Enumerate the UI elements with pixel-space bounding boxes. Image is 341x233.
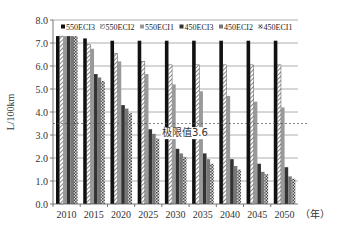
legend-swatch [219, 25, 223, 29]
bar-450ECI1-2015 [101, 81, 105, 204]
bar-550ECI2-2020 [114, 53, 118, 204]
bar-450ECI2-2025 [152, 134, 156, 204]
bar-550ECI2-2050 [277, 65, 281, 204]
x-tick-label: 2020 [111, 209, 131, 220]
bar-550ECI3-2035 [192, 41, 196, 204]
bar-450ECI2-2035 [207, 159, 211, 204]
y-tick-label: 2.0 [36, 153, 49, 164]
bar-550ECI1-2025 [145, 74, 149, 204]
bar-550ECI3-2045 [247, 41, 251, 204]
bar-450ECI1-2025 [156, 138, 160, 204]
legend-swatch [259, 25, 263, 29]
y-axis-label: L/100km [5, 93, 16, 130]
bar-550ECI3-2015 [83, 38, 87, 204]
bar-550ECI2-2015 [87, 44, 91, 204]
y-tick-label: 5.0 [36, 84, 49, 95]
legend-swatch [140, 25, 144, 29]
legend-swatch [180, 25, 184, 29]
bar-450ECI3-2030 [176, 149, 180, 204]
bar-450ECI1-2045 [265, 174, 269, 204]
bar-450ECI2-2015 [98, 78, 102, 205]
y-tick-label: 8.0 [36, 15, 49, 26]
limit-label: 极限值3.6 [162, 126, 208, 138]
x-tick-label: 2025 [138, 209, 158, 220]
y-tick-label: 4.0 [36, 107, 49, 118]
x-tick-label: 2030 [166, 209, 186, 220]
bar-550ECI2-2025 [141, 61, 145, 204]
bar-450ECI1-2050 [292, 179, 296, 204]
bar-450ECI3-2035 [203, 153, 207, 204]
bar-450ECI3-2045 [257, 164, 261, 204]
legend-label: 450ECI1 [264, 23, 293, 32]
bar-550ECI1-2010 [63, 36, 67, 204]
y-tick-label: 6.0 [36, 61, 49, 72]
bar-550ECI1-2030 [172, 84, 176, 204]
legend-label: 550ECI3 [66, 23, 95, 32]
bar-550ECI3-2030 [165, 41, 169, 204]
bar-550ECI3-2020 [110, 41, 114, 204]
legend: 550ECI3550ECI2550ECI1450ECI3450ECI2450EC… [59, 22, 297, 32]
bar-450ECI2-2045 [261, 172, 265, 204]
bar-450ECI1-2010 [74, 36, 78, 204]
bar-450ECI2-2010 [70, 36, 74, 204]
y-tick-label: 0.0 [36, 199, 49, 210]
bar-550ECI1-2045 [254, 102, 258, 204]
bar-550ECI3-2040 [219, 41, 223, 204]
y-tick-label: 7.0 [36, 38, 49, 49]
bar-450ECI1-2040 [237, 170, 241, 205]
x-tick-label: 2040 [220, 209, 240, 220]
bar-450ECI2-2050 [288, 176, 292, 204]
bar-550ECI1-2035 [199, 91, 203, 204]
bar-450ECI1-2020 [128, 113, 132, 204]
legend-label: 550ECI2 [106, 23, 135, 32]
x-axis-label: （年） [300, 208, 330, 220]
y-tick-label: 3.0 [36, 130, 49, 141]
bar-550ECI1-2015 [90, 49, 94, 204]
x-tick-label: 2015 [84, 209, 104, 220]
legend-swatch [101, 25, 105, 29]
bar-450ECI3-2050 [285, 167, 289, 204]
legend-swatch [61, 25, 65, 29]
bar-550ECI3-2010 [56, 36, 60, 204]
bar-550ECI2-2045 [250, 65, 254, 204]
bar-550ECI1-2050 [281, 107, 285, 204]
bar-550ECI1-2020 [118, 61, 122, 204]
bars [56, 36, 295, 204]
bar-450ECI2-2040 [234, 166, 238, 204]
bar-450ECI3-2025 [148, 129, 152, 204]
bar-450ECI3-2020 [121, 105, 125, 204]
bar-450ECI1-2030 [183, 157, 187, 204]
bar-550ECI2-2010 [60, 36, 64, 204]
fuel-consumption-chart: 0.01.02.03.04.05.06.07.08.0L/100km201020… [0, 0, 341, 233]
bar-450ECI3-2010 [67, 36, 71, 204]
x-tick-label: 2010 [57, 209, 77, 220]
bar-450ECI3-2040 [230, 159, 234, 204]
bar-550ECI1-2040 [227, 96, 231, 204]
bar-450ECI2-2020 [125, 109, 129, 204]
x-tick-label: 2035 [193, 209, 213, 220]
bar-550ECI2-2040 [223, 65, 227, 204]
bar-550ECI3-2025 [138, 41, 142, 204]
bar-450ECI1-2035 [210, 164, 214, 204]
x-tick-label: 2050 [274, 209, 294, 220]
bar-450ECI3-2015 [94, 74, 98, 204]
legend-label: 550ECI1 [145, 23, 174, 32]
y-tick-label: 1.0 [36, 176, 49, 187]
bar-550ECI3-2050 [274, 41, 278, 204]
x-tick-label: 2045 [247, 209, 267, 220]
bar-450ECI2-2030 [179, 153, 183, 204]
legend-label: 450ECI3 [185, 23, 214, 32]
legend-label: 450ECI2 [224, 23, 253, 32]
